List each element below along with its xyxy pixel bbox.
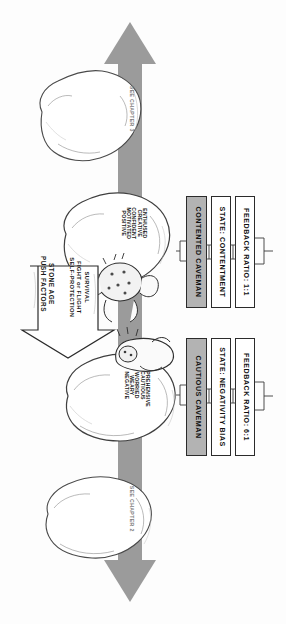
cautious-state-text: STATE: NEGATIVITY BIAS [217, 347, 224, 446]
caveman-cautious-figure [108, 320, 182, 378]
diagram-canvas: SEE CHAPTER 3 ENTHUSED CREATIVE CONFIDEN… [0, 0, 286, 624]
push-factors-items: SURVIVAL FIGHT or FLIGHT SELF-PROTECTION [68, 244, 91, 330]
contented-caveman-panel: CONTENTED CAVEMAN STATE: CONTENTMENT FEE… [186, 196, 278, 308]
cautious-ratio-connector-icon [230, 388, 237, 404]
cautious-caveman-panel: CAUTIOUS CAVEMAN STATE: NEGATIVITY BIAS … [186, 338, 278, 456]
cautious-ratio-text: FEEDBACK RATIO: 6:1 [241, 353, 248, 441]
contented-ratio-connector-icon [230, 244, 237, 260]
contented-state-connector-icon [206, 244, 213, 260]
contented-ratio-text: FEEDBACK RATIO: 1:1 [241, 208, 248, 296]
contented-state-text: STATE: CONTENTMENT [217, 207, 224, 298]
contented-header-box[interactable]: CONTENTED CAVEMAN [186, 196, 207, 308]
contented-header-text: CONTENTED CAVEMAN [193, 207, 200, 298]
cautious-state-connector-icon [206, 388, 213, 404]
contented-state-box[interactable]: STATE: CONTENTMENT [211, 196, 231, 308]
see-chapter-top-label: SEE CHAPTER 3 [128, 81, 133, 137]
see-chapter-bottom-label: SEE CHAPTER 2 [128, 480, 133, 538]
contented-header-connector-icon [176, 240, 188, 262]
arrow-head-up-icon [104, 22, 156, 64]
cautious-header-text: CAUTIOUS CAVEMAN [193, 355, 200, 438]
cautious-header-connector-icon [176, 384, 188, 406]
upper-rock-mood-list: ENTHUSED CREATIVE CONFIDENT MOTIVATED PO… [121, 190, 148, 256]
cautious-header-box[interactable]: CAUTIOUS CAVEMAN [186, 338, 207, 456]
cautious-ratio-box[interactable]: FEEDBACK RATIO: 6:1 [235, 338, 255, 456]
cautious-state-box[interactable]: STATE: NEGATIVITY BIAS [211, 338, 231, 456]
contented-ratio-box[interactable]: FEEDBACK RATIO: 1:1 [235, 196, 255, 308]
cautious-tail-connector-icon [254, 380, 274, 412]
rock-bottom-plain [36, 468, 158, 568]
push-factors-heading: STONE AGE PUSH FACTORS [39, 241, 55, 327]
contented-tail-connector-icon [254, 236, 274, 266]
